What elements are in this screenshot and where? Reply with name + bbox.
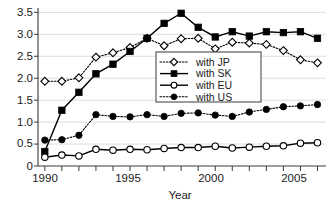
y-tick-label-3-0: 3.0	[17, 28, 33, 40]
y-tick-label-1-5: 1.5	[17, 94, 33, 106]
data-point	[195, 144, 201, 150]
data-point	[195, 24, 201, 30]
data-point	[314, 101, 320, 107]
data-point	[297, 29, 303, 35]
data-point	[212, 143, 218, 149]
x-tick-label-2000: 2000	[198, 172, 224, 184]
x-tick-label-1990: 1990	[32, 172, 58, 184]
data-point	[127, 146, 133, 152]
data-point	[246, 109, 252, 115]
legend-label: with SK	[195, 67, 232, 79]
data-point	[161, 145, 167, 151]
data-point	[178, 110, 184, 116]
y-tick-label-2-0: 2.0	[17, 72, 33, 84]
data-point	[59, 136, 65, 142]
data-point	[229, 113, 235, 119]
data-point	[110, 61, 116, 67]
data-point	[59, 152, 65, 158]
data-point	[127, 48, 133, 54]
data-point	[229, 145, 235, 151]
data-point	[280, 104, 286, 110]
data-point	[263, 143, 269, 149]
data-point	[195, 110, 201, 116]
data-point	[110, 147, 116, 153]
data-point	[263, 106, 269, 112]
data-point	[127, 114, 133, 120]
legend-label: with US	[195, 91, 232, 103]
data-point	[297, 103, 303, 109]
data-point	[229, 29, 235, 35]
legend-label: with EU	[195, 79, 232, 91]
data-point	[76, 153, 82, 159]
data-point	[76, 132, 82, 138]
data-point	[314, 140, 320, 146]
y-tick-label-3-5: 3.5	[17, 6, 33, 18]
data-point	[246, 144, 252, 150]
data-point	[161, 113, 167, 119]
data-point	[280, 29, 286, 35]
data-point	[263, 29, 269, 35]
data-point	[59, 107, 65, 113]
legend-label: with JP	[195, 56, 230, 68]
data-point	[144, 111, 150, 117]
chart-figure: 0 0.5 1.0 1.5 2.0 2.5 3.0 3.5 1990 1995 …	[0, 0, 332, 205]
data-point	[144, 35, 150, 41]
legend-marker-sample	[171, 71, 177, 77]
data-point	[42, 137, 48, 143]
legend-marker-sample	[171, 82, 177, 88]
data-point	[93, 111, 99, 117]
data-point	[212, 34, 218, 40]
data-point	[110, 113, 116, 119]
data-point	[178, 144, 184, 150]
data-point	[280, 143, 286, 149]
data-point	[93, 146, 99, 152]
data-point	[161, 20, 167, 26]
x-axis-title: Year	[168, 189, 191, 201]
data-point	[212, 112, 218, 118]
legend-marker-sample	[171, 94, 177, 100]
x-tick-label-2005: 2005	[281, 172, 307, 184]
y-tick-label-2-5: 2.5	[17, 50, 33, 62]
y-tick-label-1-0: 1.0	[17, 116, 33, 128]
data-point	[297, 140, 303, 146]
data-point	[93, 71, 99, 77]
y-tick-label-0: 0	[27, 160, 33, 172]
data-point	[178, 10, 184, 16]
chart-legend: with JPwith SKwith EUwith US	[156, 52, 261, 103]
data-point	[246, 33, 252, 39]
data-point	[76, 89, 82, 95]
data-point	[42, 154, 48, 160]
y-tick-label-0-5: 0.5	[17, 137, 33, 149]
x-tick-label-1995: 1995	[115, 172, 141, 184]
data-point	[144, 147, 150, 153]
line-chart: 0 0.5 1.0 1.5 2.0 2.5 3.0 3.5 1990 1995 …	[0, 0, 332, 205]
data-point	[314, 35, 320, 41]
